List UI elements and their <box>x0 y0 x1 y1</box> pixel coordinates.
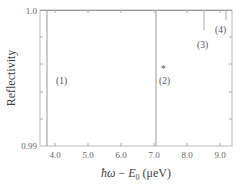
x-tick-labels: 4.0 5.0 6.0 7.0 8.0 9.0 <box>49 150 226 160</box>
svg-text:6.0: 6.0 <box>115 150 127 160</box>
reflectivity-chart: 4.0 5.0 6.0 7.0 8.0 9.0 1.0 0.99 Reflect… <box>0 0 242 188</box>
svg-text:4.0: 4.0 <box>49 150 61 160</box>
annotation-3: (3) <box>197 40 208 51</box>
annotation-4: (4) <box>215 25 226 36</box>
y-tick-top: 1.0 <box>26 6 38 16</box>
svg-text:7.0: 7.0 <box>148 150 160 160</box>
svg-text:9.0: 9.0 <box>214 150 226 160</box>
annotation-star: * <box>161 64 166 74</box>
x-ticks <box>55 10 220 146</box>
plot-frame <box>40 10 232 146</box>
y-tick-bottom: 0.99 <box>21 141 37 151</box>
svg-text:5.0: 5.0 <box>82 150 94 160</box>
svg-text:8.0: 8.0 <box>181 150 193 160</box>
annotation-1: (1) <box>56 76 67 87</box>
annotation-2: (2) <box>159 76 170 87</box>
x-axis-label: ħω − E0 (μeV) <box>101 166 171 182</box>
y-axis-label: Reflectivity <box>4 50 18 107</box>
